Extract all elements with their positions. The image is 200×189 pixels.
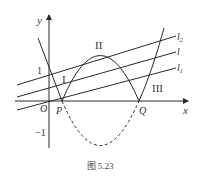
curve-dashed-below bbox=[62, 101, 139, 146]
line-l-label: l bbox=[177, 47, 180, 57]
tick-label-minus-one: −1 bbox=[35, 128, 46, 138]
figure-caption: 图 5.23 bbox=[0, 159, 200, 172]
line-l2-label: l2 bbox=[177, 32, 183, 43]
y-axis-label: y bbox=[37, 15, 42, 26]
line-l1-label: l1 bbox=[177, 63, 183, 74]
region-ii-label: II bbox=[95, 40, 102, 51]
point-q-label: Q bbox=[139, 106, 146, 116]
point-p-label: P bbox=[56, 106, 62, 116]
tick-label-one: 1 bbox=[37, 66, 42, 76]
region-iii-label: III bbox=[152, 83, 163, 94]
curve-middle-arch bbox=[62, 56, 139, 102]
origin-label: O bbox=[40, 104, 47, 114]
x-axis-label: x bbox=[183, 105, 188, 116]
region-i-label: I bbox=[62, 74, 66, 85]
